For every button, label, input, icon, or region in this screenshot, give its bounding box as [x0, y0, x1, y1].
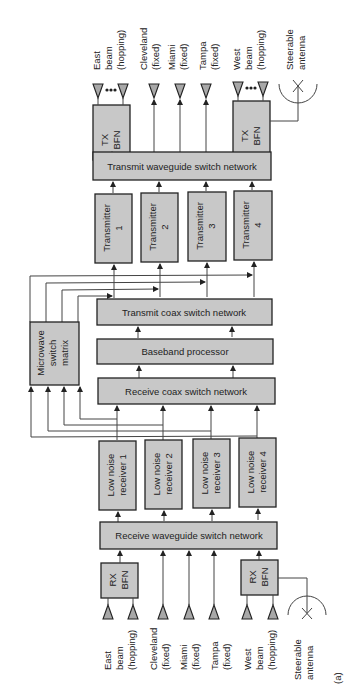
top-label-east-1: East — [91, 51, 102, 70]
low-noise-receivers: Low noise receiver 1 Low noise receiver … — [99, 438, 276, 510]
top-label-tampa-1: Tampa — [197, 41, 208, 70]
antenna-icon — [158, 605, 168, 619]
bottom-label-cleveland-2: (fixed) — [160, 644, 171, 670]
antenna-icon — [201, 84, 211, 98]
lnr-1-line2: receiver 1 — [117, 454, 128, 496]
top-label-west-2: beam — [243, 46, 254, 70]
microwave-matrix-line1: Microwave — [35, 330, 46, 375]
transmit-coax-label: Transmit coax switch network — [122, 307, 246, 318]
antenna-icon — [233, 82, 243, 96]
top-label-west-3: (hopping) — [255, 30, 266, 70]
top-label-east-2: beam — [103, 46, 114, 70]
receive-coax-label: Receive coax switch network — [125, 386, 247, 397]
lnr-3-line1: Low noise — [199, 452, 210, 495]
antenna-icon — [103, 605, 113, 619]
top-label-steerable-1: Steerable — [284, 29, 295, 70]
lnr-2-line2: receiver 2 — [163, 453, 174, 495]
bottom-label-tampa-1: Tampa — [209, 641, 220, 670]
antenna-icon — [184, 605, 194, 619]
tx-bfn-west-line2: BFN — [251, 126, 262, 145]
antenna-icon — [268, 605, 278, 619]
transmitter-2-line2: 2 — [159, 224, 170, 229]
antenna-icon — [93, 84, 103, 98]
bottom-label-miami-1: Miami — [178, 645, 189, 670]
bottom-label-west-1: West — [242, 648, 253, 670]
bottom-label-tampa-2: (fixed) — [221, 644, 232, 670]
top-label-steerable-2: antenna — [296, 35, 307, 70]
tx-bfn-west-line1: TX — [239, 129, 250, 142]
antenna-icon — [242, 605, 252, 619]
antenna-icon — [175, 84, 185, 98]
transmitter-3-line2: 3 — [206, 223, 217, 228]
figure-label: (a) — [332, 672, 343, 684]
bottom-label-west-3: (hopping) — [266, 630, 277, 670]
top-label-east-3: (hopping) — [115, 30, 126, 70]
antenna-icon — [128, 605, 138, 619]
top-antenna-labels: East beam (hopping) Cleveland (fixed) Mi… — [91, 28, 307, 70]
baseband-label: Baseband processor — [141, 346, 228, 357]
lnr-4-line1: Low noise — [245, 451, 256, 494]
transmitter-1-line1: Transmitter — [101, 204, 112, 252]
top-label-miami-2: (fixed) — [178, 44, 189, 70]
transmitter-2-line1: Transmitter — [147, 203, 158, 251]
tx-bfn-east-line1: TX — [99, 133, 110, 146]
bottom-label-west-2: beam — [254, 646, 265, 670]
lnr-3-line2: receiver 3 — [211, 452, 222, 494]
bottom-label-miami-2: (fixed) — [190, 644, 201, 670]
microwave-matrix-line2: switch — [47, 340, 58, 366]
bottom-label-east-3: (hopping) — [126, 630, 137, 670]
bottom-label-steerable-1: Steerable — [292, 639, 303, 680]
top-label-cleveland-2: (fixed) — [150, 44, 161, 70]
bottom-label-steerable-2: antenna — [304, 645, 315, 680]
transmit-waveguide-label: Transmit waveguide switch network — [107, 161, 257, 172]
rx-bfn-east-line2: BFN — [119, 570, 130, 589]
antenna-icon — [209, 605, 219, 619]
tx-bfn-east-line2: BFN — [111, 130, 122, 149]
antenna-icon — [258, 82, 268, 96]
transmitter-4-line2: 4 — [252, 222, 263, 227]
antenna-icon — [149, 84, 159, 98]
lnr-2-line1: Low noise — [151, 453, 162, 496]
bottom-label-east-1: East — [102, 651, 113, 670]
top-antennas — [93, 80, 317, 103]
bottom-antenna-labels: East beam (hopping) Cleveland (fixed) Mi… — [102, 628, 343, 684]
rx-bfn-west-line2: BFN — [259, 567, 270, 586]
top-label-miami-1: Miami — [166, 45, 177, 70]
transmitters: Transmitter 1 Transmitter 2 Transmitter … — [95, 191, 272, 263]
top-label-west-1: West — [231, 48, 242, 70]
antenna-icon — [118, 84, 128, 98]
microwave-matrix-line3: matrix — [59, 340, 70, 366]
transmitter-3-line1: Transmitter — [194, 202, 205, 250]
receive-waveguide-label: Receive waveguide switch network — [115, 530, 263, 541]
bottom-label-east-2: beam — [114, 646, 125, 670]
lnr-4-line2: receiver 4 — [257, 451, 268, 493]
satellite-payload-block-diagram: East beam (hopping) Cleveland (fixed) Mi… — [0, 0, 358, 689]
top-label-cleveland-1: Cleveland — [138, 28, 149, 70]
transmitter-1-line2: 1 — [113, 225, 124, 230]
rx-bfn-west-line1: RX — [247, 570, 258, 584]
transmitter-4-line1: Transmitter — [240, 201, 251, 249]
top-label-tampa-2: (fixed) — [209, 44, 220, 70]
lnr-1-line1: Low noise — [105, 454, 116, 497]
rx-bfn-east-line1: RX — [107, 573, 118, 587]
bottom-label-cleveland-1: Cleveland — [148, 628, 159, 670]
